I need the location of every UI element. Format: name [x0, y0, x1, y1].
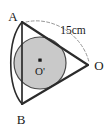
label-vertex-o: O: [94, 58, 103, 73]
label-measure-15cm: 15cm: [60, 24, 86, 36]
label-vertex-a: A: [8, 9, 18, 24]
label-center-o-prime: O': [35, 65, 45, 77]
label-vertex-b: B: [17, 112, 26, 127]
geometry-canvas: A B O O' 15cm: [0, 0, 109, 129]
center-point-marker: [38, 58, 41, 61]
geometry-figure: A B O O' 15cm: [0, 0, 109, 129]
